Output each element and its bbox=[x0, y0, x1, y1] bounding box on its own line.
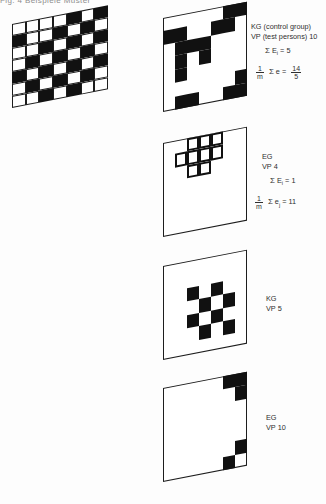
annotation-4-line2: VP 10 bbox=[266, 423, 286, 433]
filled-cell bbox=[187, 286, 199, 302]
empty-cell bbox=[12, 93, 26, 108]
subscript-i: i bbox=[277, 51, 278, 57]
annotation-1-equation-2: 1 m Σ e = 14 5 bbox=[251, 65, 317, 80]
annotation-2-line2: VP 4 bbox=[262, 162, 296, 172]
equals-sign: = bbox=[282, 68, 286, 77]
filled-cell bbox=[235, 439, 247, 455]
empty-cell bbox=[53, 85, 67, 100]
annotation-1-line2: VP (test persons) 10 bbox=[251, 32, 317, 42]
value-1: 1 bbox=[291, 176, 295, 185]
filled-cell bbox=[223, 319, 235, 335]
filled-cell bbox=[235, 82, 247, 98]
sigma-symbol: Σ bbox=[265, 46, 270, 55]
filled-cell bbox=[163, 29, 175, 45]
empty-cell bbox=[26, 91, 40, 106]
fraction-fourteen-fifths: 14 5 bbox=[291, 65, 301, 80]
numerator: 1 bbox=[255, 195, 263, 202]
filled-cell bbox=[199, 297, 211, 313]
numerator: 14 bbox=[291, 65, 301, 72]
sigma-symbol: Σ bbox=[269, 68, 274, 77]
panel-1-cells bbox=[163, 2, 247, 112]
filled-cell bbox=[199, 49, 211, 65]
denominator: 5 bbox=[291, 72, 301, 80]
reference-grid-cells bbox=[12, 5, 108, 108]
numerator: 1 bbox=[256, 65, 264, 72]
sigma-symbol: Σ bbox=[270, 176, 275, 185]
fraction-one-over-m: 1 m bbox=[256, 65, 264, 80]
annotation-1-equation-1: Σ Ei = 5 bbox=[251, 46, 317, 59]
panel-3-cells bbox=[163, 250, 247, 360]
equals-sign: = bbox=[280, 46, 284, 55]
filled-cell bbox=[211, 281, 223, 297]
empty-cell bbox=[81, 80, 95, 95]
reference-pattern-grid bbox=[12, 24, 108, 108]
filled-cell bbox=[223, 85, 235, 101]
filled-cell bbox=[223, 455, 235, 471]
equals-sign: = bbox=[282, 198, 286, 207]
figure-page: Fig. 4 Beispiele Muster KG (control grou… bbox=[0, 0, 326, 504]
outlined-cell bbox=[199, 161, 211, 177]
filled-cell bbox=[235, 385, 247, 401]
filled-cell bbox=[187, 38, 199, 54]
panel-eg-vp-10 bbox=[163, 388, 247, 482]
annotation-2-equation-2: 1 m Σ ej = 11 bbox=[250, 195, 296, 210]
filled-cell bbox=[175, 94, 187, 110]
panel-2-cells bbox=[163, 127, 247, 237]
value-11: 11 bbox=[288, 198, 296, 207]
annotation-4-line1: EG bbox=[266, 413, 286, 423]
filled-cell bbox=[199, 324, 211, 340]
annotation-kg-vp-10: KG (control group) VP (test persons) 10 … bbox=[251, 22, 317, 80]
panel-4-cells bbox=[163, 372, 247, 482]
variable-e: e bbox=[276, 68, 280, 77]
outlined-cell bbox=[211, 145, 223, 161]
subscript-j: j bbox=[279, 202, 280, 208]
annotation-eg-vp-10: EG VP 10 bbox=[266, 413, 286, 432]
panel-kg-vp-5 bbox=[163, 266, 247, 360]
value-5: 5 bbox=[286, 46, 290, 55]
truncated-header-text: Fig. 4 Beispiele Muster bbox=[0, 0, 200, 6]
annotation-3-line1: KG bbox=[266, 294, 282, 304]
sigma-symbol: Σ bbox=[268, 198, 273, 207]
subscript-i: i bbox=[282, 181, 283, 187]
annotation-2-line1: EG bbox=[262, 152, 296, 162]
panel-eg-vp-4 bbox=[163, 143, 247, 237]
fraction-one-over-m: 1 m bbox=[255, 195, 263, 210]
filled-cell bbox=[175, 67, 187, 83]
annotation-2-equation-1: Σ Ei = 1 bbox=[262, 176, 296, 189]
filled-cell bbox=[223, 17, 235, 33]
filled-cell bbox=[223, 292, 235, 308]
denominator: m bbox=[256, 72, 264, 80]
filled-cell bbox=[39, 88, 53, 103]
filled-cell bbox=[187, 92, 199, 108]
annotation-kg-vp-5: KG VP 5 bbox=[266, 294, 282, 313]
outlined-cell bbox=[175, 152, 187, 168]
filled-cell bbox=[211, 308, 223, 324]
filled-cell bbox=[223, 374, 235, 390]
filled-cell bbox=[211, 20, 223, 36]
annotation-eg-vp-4: EG VP 4 Σ Ei = 1 1 m Σ ej = 11 bbox=[262, 152, 296, 211]
filled-cell bbox=[235, 2, 247, 18]
annotation-1-line1: KG (control group) bbox=[251, 22, 317, 32]
empty-cell bbox=[94, 77, 108, 92]
annotation-3-line2: VP 5 bbox=[266, 304, 282, 314]
outlined-cell bbox=[187, 163, 199, 179]
filled-cell bbox=[187, 313, 199, 329]
panel-kg-vp-10 bbox=[163, 18, 247, 112]
equals-sign: = bbox=[285, 176, 289, 185]
denominator: m bbox=[255, 202, 263, 210]
filled-cell bbox=[67, 83, 81, 98]
